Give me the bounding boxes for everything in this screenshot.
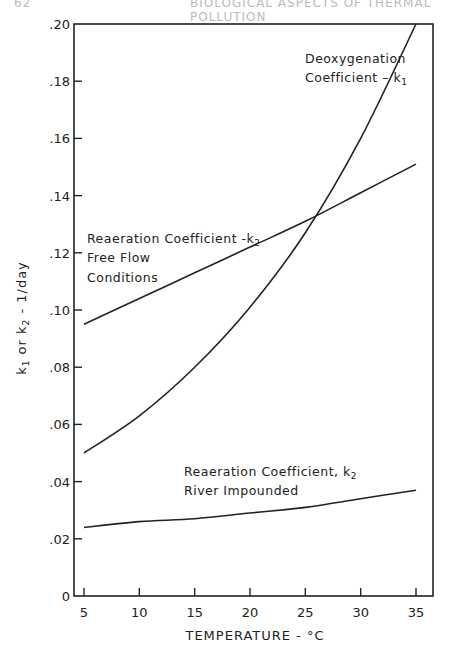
y-tick-label: .02 (49, 532, 70, 547)
svg-text:Conditions: Conditions (87, 270, 158, 285)
x-tick-label: 15 (186, 605, 203, 620)
x-tick-label: 20 (242, 605, 259, 620)
x-tick-label: 25 (297, 605, 314, 620)
svg-text:k1 or k2 - 1/day: k1 or k2 - 1/day (14, 261, 31, 375)
y-tick-label: .04 (49, 475, 70, 490)
x-tick-label: 30 (352, 605, 369, 620)
x-tick-label: 35 (408, 605, 425, 620)
svg-text:Free Flow: Free Flow (87, 250, 151, 265)
y-tick-label: .12 (49, 246, 70, 261)
y-tick-label: .06 (49, 417, 70, 432)
y-tick-label: .10 (49, 303, 70, 318)
y-tick-label: .20 (49, 17, 70, 32)
x-tick-label: 5 (80, 605, 88, 620)
y-tick-label: .14 (49, 189, 70, 204)
annotation-reaeration-impounded: Reaeration Coefficient, k2 River Impound… (184, 464, 357, 498)
svg-text:River Impounded: River Impounded (184, 483, 299, 498)
x-axis-title: TEMPERATURE - °C (184, 628, 324, 643)
y-axis: 0.02.04.06.08.10.12.14.16.18.20 (49, 17, 82, 604)
y-tick-label: .08 (49, 360, 70, 375)
x-axis: 5101520253035 (80, 588, 424, 620)
plot-frame (74, 24, 433, 596)
svg-text:Coefficient – k1: Coefficient – k1 (305, 70, 407, 87)
svg-text:Reaeration Coefficient -k2: Reaeration Coefficient -k2 (87, 231, 261, 248)
y-tick-label: .16 (49, 131, 70, 146)
y-tick-label: .18 (49, 74, 70, 89)
y-tick-label: 0 (62, 589, 70, 604)
annotation-deoxygenation: Deoxygenation Coefficient – k1 (305, 51, 407, 87)
svg-text:Deoxygenation: Deoxygenation (305, 51, 406, 66)
chart: 0.02.04.06.08.10.12.14.16.18.20 51015202… (0, 0, 450, 654)
x-tick-label: 10 (131, 605, 148, 620)
y-axis-title: k1 or k2 - 1/day (14, 261, 31, 375)
svg-text:Reaeration Coefficient, k2: Reaeration Coefficient, k2 (184, 464, 357, 481)
annotation-reaeration-free-flow: Reaeration Coefficient -k2 Free Flow Con… (87, 231, 261, 285)
